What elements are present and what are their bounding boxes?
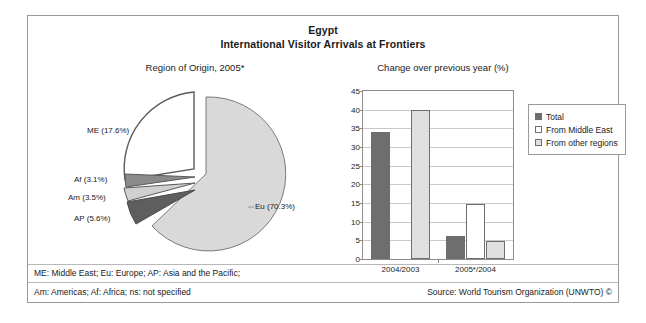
legend-swatch-icon bbox=[535, 113, 542, 120]
y-axis-tick-label: 30 bbox=[351, 143, 360, 152]
x-axis-tickmark bbox=[438, 259, 439, 263]
footnote-divider-top bbox=[28, 264, 618, 265]
y-axis-tickmark bbox=[360, 147, 363, 148]
bar-1-1 bbox=[466, 204, 485, 259]
y-axis-tickmark bbox=[360, 91, 363, 92]
figure-frame: Egypt International Visitor Arrivals at … bbox=[27, 15, 619, 303]
y-axis-tick-label: 40 bbox=[351, 105, 360, 114]
y-axis-tickmark bbox=[360, 259, 363, 260]
y-axis-tickmark bbox=[360, 240, 363, 241]
bar-chart-plot-area: 4540353025201510502004/20032005*/2004 bbox=[362, 90, 514, 260]
pie-label-eu: Eu (70.3%) bbox=[255, 202, 295, 211]
legend-item-2[interactable]: From other regions bbox=[535, 136, 618, 149]
y-axis-tick-label: 5 bbox=[356, 236, 360, 245]
pie-chart-title: Region of Origin, 2005* bbox=[80, 62, 310, 73]
y-axis-tickmark bbox=[360, 222, 363, 223]
y-axis-tick-label: 45 bbox=[351, 87, 360, 96]
x-axis-tick-label: 2005*/2004 bbox=[455, 265, 496, 274]
footnote-abbreviations-line2: Am: Americas; Af: Africa; ns: not specif… bbox=[34, 287, 191, 297]
gridline bbox=[363, 110, 513, 111]
bar-chart-legend: TotalFrom Middle EastFrom other regions bbox=[528, 104, 626, 155]
page-title: Egypt bbox=[28, 24, 618, 36]
bar-0-2 bbox=[411, 110, 430, 259]
y-axis-tick-label: 10 bbox=[351, 217, 360, 226]
x-axis-tick-label: 2004/2003 bbox=[382, 265, 420, 274]
bar-chart: 4540353025201510502004/20032005*/2004 To… bbox=[328, 78, 613, 278]
y-axis-tickmark bbox=[360, 203, 363, 204]
footnote-abbreviations-line1: ME: Middle East; Eu: Europe; AP: Asia an… bbox=[34, 268, 240, 278]
y-axis-tick-label: 35 bbox=[351, 124, 360, 133]
pie-chart-svg bbox=[58, 76, 328, 266]
legend-label: From other regions bbox=[546, 138, 618, 148]
y-axis-tickmark bbox=[360, 184, 363, 185]
legend-item-1[interactable]: From Middle East bbox=[535, 123, 618, 136]
y-axis-tick-label: 15 bbox=[351, 199, 360, 208]
legend-label: From Middle East bbox=[546, 125, 613, 135]
legend-swatch-icon bbox=[535, 126, 542, 133]
y-axis-tick-label: 20 bbox=[351, 180, 360, 189]
y-axis-tickmark bbox=[360, 128, 363, 129]
source-credit: Source: World Tourism Organization (UNWT… bbox=[427, 287, 612, 297]
y-axis-tick-label: 0 bbox=[356, 255, 360, 264]
bar-0-0 bbox=[371, 132, 390, 259]
bar-1-2 bbox=[486, 241, 505, 259]
bar-chart-title: Change over previous year (%) bbox=[328, 62, 558, 73]
pie-label-ap: AP (5.6%) bbox=[74, 214, 110, 223]
y-axis-tick-label: 25 bbox=[351, 161, 360, 170]
gridline bbox=[363, 128, 513, 129]
pie-chart: ME (17.6%) Af (3.1%) Am (3.5%) AP (5.6%)… bbox=[58, 76, 328, 266]
legend-label: Total bbox=[546, 112, 564, 122]
page-subtitle: International Visitor Arrivals at Fronti… bbox=[28, 38, 618, 50]
legend-swatch-icon bbox=[535, 139, 542, 146]
bar-1-0 bbox=[446, 236, 465, 259]
y-axis-tickmark bbox=[360, 166, 363, 167]
pie-label-am: Am (3.5%) bbox=[68, 193, 106, 202]
pie-label-me: ME (17.6%) bbox=[87, 126, 129, 135]
pie-slice-me bbox=[124, 92, 194, 180]
y-axis-tickmark bbox=[360, 110, 363, 111]
pie-label-af: Af (3.1%) bbox=[74, 175, 107, 184]
footnote-divider-mid bbox=[28, 282, 618, 283]
legend-item-0[interactable]: Total bbox=[535, 110, 618, 123]
